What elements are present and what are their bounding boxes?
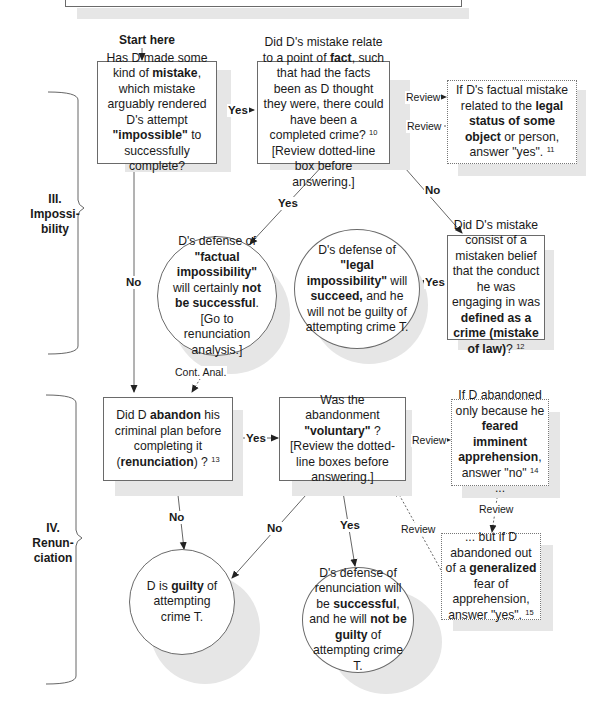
edge-label-review: Review	[406, 120, 442, 133]
result-guilty-circle: D is guilty of attempting crime T.	[129, 549, 235, 655]
edge-label-yes: Yes	[424, 276, 446, 289]
edge-label-cont-anal: Cont. Anal.	[174, 366, 227, 379]
edge-label-yes: Yes	[277, 197, 299, 210]
edge-label-no: No	[424, 184, 441, 197]
section-impossibility-label: III. Impossi- bility	[22, 192, 88, 237]
result-factual-impossibility-circle: D's defense of "factual impossibility" w…	[157, 236, 277, 356]
question-fact-box: Did D's mistake relate to a point of fac…	[257, 61, 390, 164]
edge-label-yes: Yes	[339, 519, 361, 532]
section-title-line2: bility	[22, 222, 88, 237]
question-mistake-of-law-box: Did D's mistake consist of a mistaken be…	[447, 235, 545, 340]
edge-label-review: Review	[400, 523, 436, 536]
edge-label-yes: Yes	[227, 104, 249, 117]
edge-label-no: No	[266, 522, 283, 535]
result-legal-impossibility-circle: D's defense of "legal impossibility" wil…	[294, 229, 420, 349]
question-abandon-box: Did D abandon his criminal plan before c…	[103, 397, 233, 481]
edge-label-review: Review	[478, 503, 514, 516]
start-here-label: Start here	[118, 34, 176, 47]
result-renunciation-success-circle: D's defense of renunciation will be succ…	[302, 567, 414, 673]
question-mistake-box: Has D made some kind of mistake, which m…	[97, 61, 217, 164]
section-title-line2: ciation	[22, 551, 84, 566]
edge-label-yes: Yes	[245, 432, 267, 445]
edge-label-review: Review	[405, 91, 441, 104]
edge-label-review: Review	[411, 434, 447, 447]
edge-label-no: No	[125, 276, 142, 289]
edge-label-no: No	[168, 511, 185, 524]
section-title-line1: Renun-	[22, 536, 84, 551]
question-voluntary-box: Was the abandonment "voluntary" ? [Revie…	[279, 397, 406, 481]
note-imminent-apprehension-box: If D abandoned only because he feared im…	[451, 399, 549, 486]
section-title-line1: Impossi-	[22, 207, 88, 222]
section-number: III.	[22, 192, 88, 207]
note-generalized-fear-box: ... but if D abandoned out of a generali…	[441, 533, 541, 620]
section-renunciation-label: IV. Renun- ciation	[22, 521, 84, 566]
note-legal-status-box: If D's factual mistake related to the le…	[447, 80, 577, 164]
section-number: IV.	[22, 521, 84, 536]
